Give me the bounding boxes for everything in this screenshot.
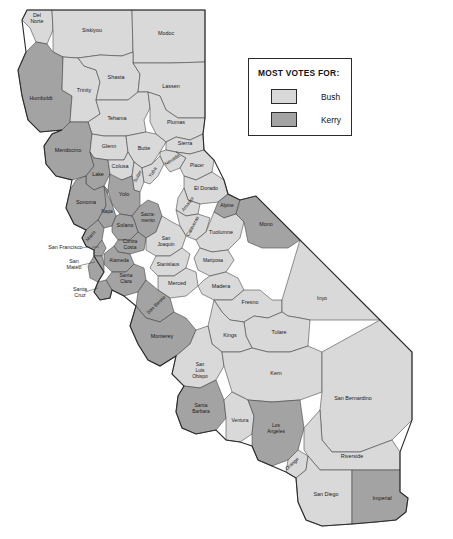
label-butte: Butte bbox=[138, 145, 151, 151]
label-colusa: Colusa bbox=[112, 163, 129, 169]
label-modoc: Modoc bbox=[158, 30, 174, 36]
legend-row-bush: Bush bbox=[271, 89, 340, 104]
legend-box: MOST VOTES FOR: Bush Kerry bbox=[248, 58, 352, 136]
label-monterey: Monterey bbox=[151, 333, 174, 339]
county-inyo[interactable] bbox=[282, 240, 380, 320]
label-mendocino: Mendocino bbox=[55, 147, 81, 153]
legend-swatch-bush bbox=[271, 89, 297, 104]
label-glenn: Glenn bbox=[102, 143, 116, 149]
label-kings: Kings bbox=[223, 332, 237, 338]
county-siskiyou[interactable] bbox=[52, 10, 133, 58]
legend-title: MOST VOTES FOR: bbox=[258, 68, 339, 78]
label-plumas: Plumas bbox=[167, 119, 185, 125]
county-san-bernardino[interactable] bbox=[320, 320, 412, 452]
label-sonoma: Sonoma bbox=[76, 199, 96, 205]
label-san-bernardino: San Bernardino bbox=[334, 395, 371, 401]
label-sacramento: Sacra-mento bbox=[141, 212, 156, 223]
california-election-map: DelNorteSiskiyouModocHumboldtTrinityShas… bbox=[0, 0, 453, 539]
leader-label-san-mateo: SanMateo bbox=[67, 258, 82, 270]
label-merced: Merced bbox=[168, 280, 186, 286]
label-kern: Kern bbox=[270, 370, 281, 376]
label-siskiyou: Siskiyou bbox=[82, 27, 102, 33]
label-humboldt: Humboldt bbox=[29, 95, 53, 101]
label-imperial: Imperial bbox=[372, 495, 391, 501]
legend-swatch-kerry bbox=[271, 112, 297, 127]
label-madera: Madera bbox=[212, 283, 230, 289]
label-mono: Mono bbox=[259, 221, 273, 227]
label-riverside: Riverside bbox=[341, 453, 363, 459]
leader-label-santa-cruz: SantaCruz bbox=[73, 286, 87, 298]
label-san-diego: San Diego bbox=[313, 491, 338, 497]
label-el-dorado: El Dorado bbox=[194, 185, 218, 191]
label-tulare: Tulare bbox=[271, 329, 286, 335]
label-alameda: Alameda bbox=[109, 258, 129, 263]
label-inyo: Inyo bbox=[317, 295, 327, 301]
county-modoc[interactable] bbox=[132, 10, 205, 63]
legend-label-bush: Bush bbox=[321, 92, 340, 102]
label-tuolumne: Tuolumne bbox=[209, 229, 233, 235]
label-yolo: Yolo bbox=[119, 191, 129, 197]
label-lassen: Lassen bbox=[162, 83, 179, 89]
label-santa-barbara: SantaBarbara bbox=[192, 403, 210, 414]
label-mariposa: Mariposa bbox=[203, 258, 223, 263]
label-alpine: Alpine bbox=[220, 203, 234, 208]
label-shasta: Shasta bbox=[108, 74, 125, 80]
map-svg: DelNorteSiskiyouModocHumboldtTrinityShas… bbox=[0, 0, 453, 539]
label-fresno: Fresno bbox=[242, 299, 259, 305]
label-stanislaus: Stanislaus bbox=[157, 262, 180, 267]
label-solano: Solano bbox=[117, 222, 134, 228]
label-trinity: Trinity bbox=[77, 87, 92, 93]
label-sierra: Sierra bbox=[178, 140, 192, 146]
label-lake: Lake bbox=[92, 171, 104, 177]
label-contra-costa: ContraCosta bbox=[123, 239, 138, 250]
label-napa: Napa bbox=[101, 209, 113, 214]
label-placer: Placer bbox=[190, 163, 204, 168]
label-santa-clara: SantaClara bbox=[120, 273, 133, 284]
label-tehama: Tehama bbox=[107, 115, 126, 121]
legend-row-kerry: Kerry bbox=[271, 112, 341, 127]
label-ventura: Ventura bbox=[232, 418, 249, 423]
legend-label-kerry: Kerry bbox=[321, 115, 341, 125]
leader-label-san-francisco: San Francisco— bbox=[48, 244, 88, 250]
